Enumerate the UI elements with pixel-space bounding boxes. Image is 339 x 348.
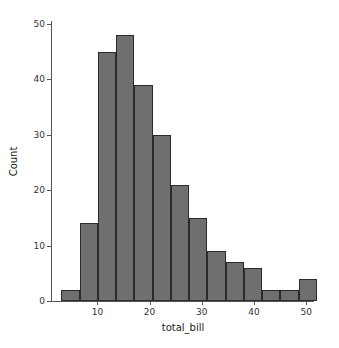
x-tick-label: 30 (196, 307, 207, 317)
x-tick-mark (150, 301, 151, 305)
y-axis-title-text: Count (9, 146, 20, 176)
x-tick-mark (202, 301, 203, 305)
histogram-bar (226, 262, 244, 301)
x-tick-mark (306, 301, 307, 305)
histogram-bar (134, 85, 152, 301)
x-tick-label: 10 (92, 307, 103, 317)
y-axis-title: Count (8, 21, 20, 301)
x-axis-spine (51, 301, 314, 302)
x-tick-mark (254, 301, 255, 305)
histogram-bar (262, 290, 280, 301)
x-tick-mark (97, 301, 98, 305)
histogram-bar (61, 290, 79, 301)
y-tick-label: 10 (34, 241, 45, 251)
y-tick-label: 20 (34, 185, 45, 195)
histogram-bar (280, 290, 298, 301)
x-axis-title: total_bill (52, 322, 314, 333)
histogram-bar (80, 223, 98, 301)
histogram-figure: 01020304050 1020304050 total_bill Count (0, 0, 339, 348)
histogram-bar (189, 218, 207, 301)
x-tick-label: 40 (248, 307, 259, 317)
histogram-bar (153, 135, 171, 301)
y-tick-mark (47, 190, 51, 191)
histogram-bar (207, 251, 225, 301)
histogram-bar (244, 268, 262, 301)
y-tick-mark (47, 135, 51, 136)
histogram-bar (299, 279, 317, 301)
y-tick-label: 50 (34, 19, 45, 29)
y-tick-mark (47, 301, 51, 302)
y-tick-label: 0 (39, 296, 45, 306)
histogram-bar (116, 35, 134, 301)
y-tick-mark (47, 24, 51, 25)
y-tick-mark (47, 246, 51, 247)
histogram-bar (98, 52, 116, 302)
y-axis-spine (51, 21, 52, 301)
x-tick-label: 50 (300, 307, 311, 317)
y-tick-label: 30 (34, 130, 45, 140)
x-tick-label: 20 (144, 307, 155, 317)
histogram-bar (171, 185, 189, 301)
plot-axes: 01020304050 1020304050 (52, 21, 314, 301)
y-tick-mark (47, 79, 51, 80)
y-tick-label: 40 (34, 74, 45, 84)
